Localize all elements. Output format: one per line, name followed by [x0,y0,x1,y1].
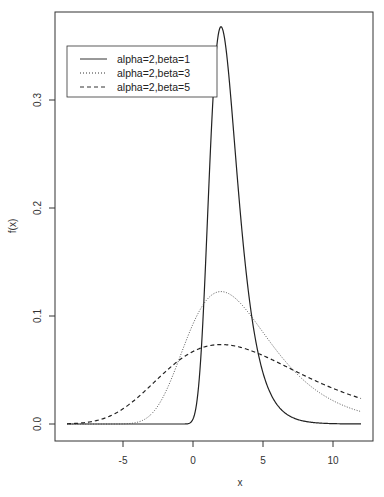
legend-label: alpha=2,beta=5 [117,81,190,93]
y-axis-title: f(x) [7,219,18,233]
x-tick-label: -5 [119,455,128,466]
y-tick-label: 0.1 [32,309,43,323]
legend: alpha=2,beta=1alpha=2,beta=3alpha=2,beta… [67,46,217,97]
x-axis: -50510 [119,441,339,466]
legend-label: alpha=2,beta=1 [117,53,190,65]
y-tick-label: 0.0 [32,417,43,431]
curve-dashed [67,345,361,424]
x-tick-label: 5 [260,455,266,466]
x-axis-title: x [238,477,243,488]
y-axis: 0.00.10.20.3 [32,93,55,431]
legend-label: alpha=2,beta=3 [117,67,190,79]
x-tick-label: 10 [327,455,339,466]
curve-dotted [67,292,361,424]
x-tick-label: 0 [190,455,196,466]
y-tick-label: 0.2 [32,201,43,215]
density-chart: -50510 0.00.10.20.3 x f(x) alpha=2,beta=… [0,0,384,497]
y-tick-label: 0.3 [32,93,43,107]
